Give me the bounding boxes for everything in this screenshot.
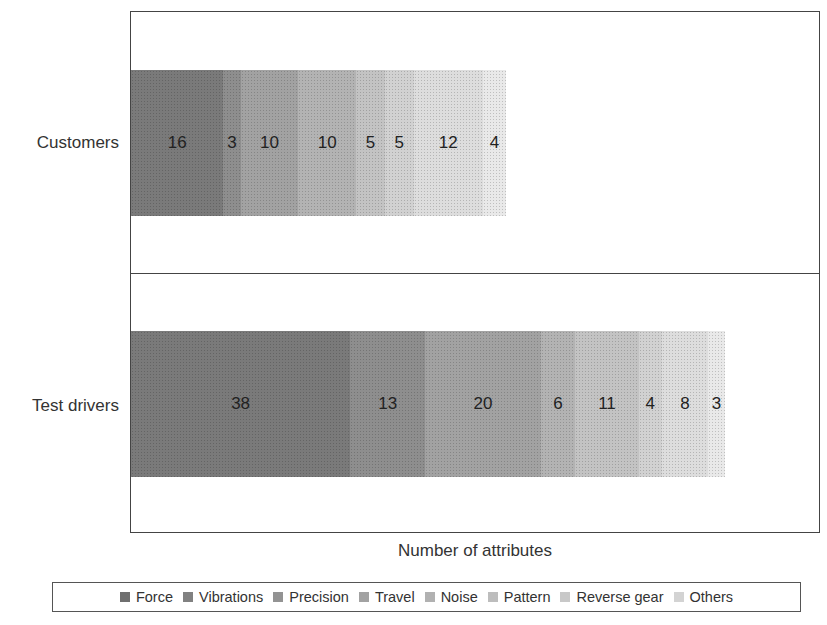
bar-segment-precision: 10: [241, 70, 299, 216]
bar-segment-others: 3: [708, 331, 725, 477]
data-label: 5: [366, 133, 375, 153]
bar-segment-others: 4: [483, 70, 506, 216]
category-label-test-drivers: Test drivers: [32, 396, 119, 416]
data-label: 16: [168, 133, 187, 153]
legend-swatch-icon: [120, 592, 130, 602]
legend-label: Vibrations: [199, 589, 263, 605]
bar-segment-force: 16: [131, 70, 223, 216]
legend-label: Noise: [441, 589, 478, 605]
data-label: 3: [712, 394, 721, 414]
legend-item-force: Force: [120, 589, 173, 605]
legend-label: Pattern: [504, 589, 551, 605]
legend-swatch-icon: [560, 592, 570, 602]
bar-segment-vibrations: 13: [350, 331, 425, 477]
data-label: 10: [318, 133, 337, 153]
bar-segment-pattern: 4: [639, 331, 662, 477]
legend: ForceVibrationsPrecisionTravelNoisePatte…: [52, 582, 801, 612]
bar-segment-travel: 10: [298, 70, 356, 216]
legend-label: Others: [690, 589, 734, 605]
legend-label: Reverse gear: [576, 589, 663, 605]
legend-swatch-icon: [183, 592, 193, 602]
data-label: 4: [490, 133, 499, 153]
legend-item-reverse-gear: Reverse gear: [560, 589, 663, 605]
bar-segment-travel: 6: [541, 331, 576, 477]
legend-item-noise: Noise: [425, 589, 478, 605]
data-label: 11: [598, 394, 616, 414]
legend-item-pattern: Pattern: [488, 589, 551, 605]
legend-swatch-icon: [359, 592, 369, 602]
bar-segment-precision: 20: [425, 331, 540, 477]
data-label: 6: [553, 394, 562, 414]
bar-segment-noise: 5: [356, 70, 385, 216]
data-label: 5: [395, 133, 404, 153]
x-axis-label: Number of attributes: [130, 541, 820, 561]
legend-label: Travel: [375, 589, 415, 605]
bar-segment-noise: 11: [575, 331, 638, 477]
legend-swatch-icon: [273, 592, 283, 602]
legend-item-travel: Travel: [359, 589, 415, 605]
bar-test-drivers: 381320611483: [131, 331, 725, 477]
legend-item-others: Others: [674, 589, 734, 605]
bar-segment-reverse-gear: 12: [414, 70, 483, 216]
data-label: 4: [646, 394, 655, 414]
data-label: 12: [439, 133, 458, 153]
data-label: 3: [227, 133, 236, 153]
bar-segment-vibrations: 3: [223, 70, 240, 216]
legend-label: Precision: [289, 589, 349, 605]
legend-swatch-icon: [425, 592, 435, 602]
legend-swatch-icon: [488, 592, 498, 602]
legend-swatch-icon: [674, 592, 684, 602]
category-label-customers: Customers: [37, 133, 119, 153]
data-label: 13: [378, 394, 397, 414]
bar-segment-reverse-gear: 8: [662, 331, 708, 477]
data-label: 38: [231, 394, 250, 414]
legend-item-precision: Precision: [273, 589, 349, 605]
bar-segment-pattern: 5: [385, 70, 414, 216]
data-label: 8: [680, 394, 689, 414]
category-divider: [131, 273, 819, 274]
data-label: 20: [473, 394, 492, 414]
bar-customers: 163101055124: [131, 70, 506, 216]
plot-area: 163101055124 381320611483: [130, 11, 820, 533]
bar-segment-force: 38: [131, 331, 350, 477]
legend-label: Force: [136, 589, 173, 605]
legend-item-vibrations: Vibrations: [183, 589, 263, 605]
data-label: 10: [260, 133, 279, 153]
